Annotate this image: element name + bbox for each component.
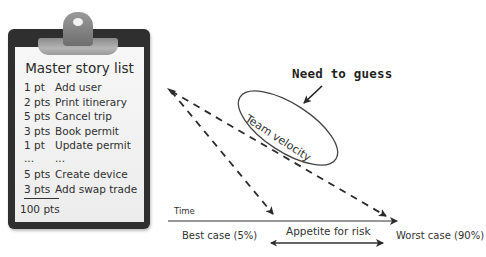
callout-arrow — [304, 86, 322, 103]
team-velocity-ellipse — [227, 77, 349, 179]
time-axis-label: Time — [174, 206, 195, 216]
worst-case-label: Worst case (90%) — [396, 230, 484, 241]
worst-case-dashed-arrow — [171, 91, 386, 216]
need-to-guess-callout: Need to guess — [292, 66, 392, 81]
best-case-dashed-arrow — [171, 91, 273, 214]
velocity-diagram — [0, 0, 486, 257]
appetite-for-risk-label: Appetite for risk — [286, 225, 370, 237]
best-case-label: Best case (5%) — [182, 230, 257, 241]
